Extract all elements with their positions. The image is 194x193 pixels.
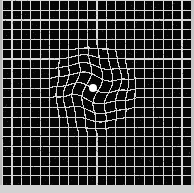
noise-speckle	[121, 11, 122, 12]
noise-speckle	[8, 64, 9, 65]
noise-speckle	[92, 180, 93, 181]
noise-speckle	[54, 83, 55, 84]
noise-speckle	[161, 25, 162, 26]
noise-speckle	[28, 102, 29, 103]
noise-speckle	[95, 157, 96, 158]
noise-speckle	[103, 179, 104, 180]
noise-speckle	[98, 100, 99, 101]
noise-speckle	[74, 2, 75, 3]
noise-speckle	[160, 133, 161, 134]
noise-speckle	[160, 31, 161, 32]
noise-speckle	[12, 132, 13, 133]
noise-speckle	[50, 161, 51, 162]
noise-speckle	[102, 63, 103, 64]
noise-speckle	[41, 177, 42, 178]
noise-speckle	[72, 122, 73, 123]
noise-speckle	[136, 22, 137, 23]
noise-speckle	[124, 24, 125, 25]
noise-speckle	[99, 123, 100, 124]
noise-speckle	[144, 133, 145, 134]
noise-speckle	[33, 166, 34, 167]
noise-speckle	[186, 9, 187, 10]
noise-speckle	[18, 134, 19, 135]
noise-speckle	[42, 68, 43, 69]
noise-speckle	[3, 143, 4, 144]
noise-speckle	[97, 118, 98, 119]
noise-speckle	[188, 62, 189, 63]
noise-speckle	[158, 121, 159, 122]
noise-speckle	[41, 54, 42, 55]
noise-speckle	[21, 20, 22, 21]
noise-speckle	[5, 118, 6, 119]
noise-speckle	[169, 7, 170, 8]
noise-speckle	[76, 11, 77, 12]
noise-speckle	[6, 167, 7, 168]
noise-speckle	[139, 157, 140, 158]
noise-speckle	[58, 151, 59, 152]
noise-speckle	[159, 116, 160, 117]
noise-speckle	[167, 29, 168, 30]
noise-speckle	[18, 1, 19, 2]
noise-speckle	[176, 64, 177, 65]
noise-speckle	[136, 128, 137, 129]
noise-speckle	[171, 143, 172, 144]
noise-speckle	[75, 147, 76, 148]
noise-speckle	[105, 161, 106, 162]
noise-speckle	[10, 180, 11, 181]
noise-speckle	[68, 44, 69, 45]
noise-speckle	[47, 154, 48, 155]
noise-speckle	[41, 83, 42, 84]
noise-speckle	[107, 173, 108, 174]
noise-speckle	[51, 129, 52, 130]
noise-speckle	[96, 137, 97, 138]
noise-speckle	[66, 58, 67, 59]
noise-speckle	[116, 146, 117, 147]
noise-speckle	[14, 100, 15, 101]
noise-speckle	[177, 169, 178, 170]
noise-speckle	[157, 65, 158, 66]
noise-speckle	[131, 37, 132, 38]
noise-speckle	[34, 38, 35, 39]
noise-speckle	[113, 159, 114, 160]
noise-speckle	[184, 149, 185, 150]
noise-speckle	[98, 3, 99, 4]
noise-speckle	[53, 17, 54, 18]
noise-speckle	[56, 64, 57, 65]
noise-speckle	[4, 8, 5, 9]
noise-speckle	[7, 121, 8, 122]
noise-speckle	[79, 125, 80, 126]
noise-speckle	[148, 60, 149, 61]
noise-speckle	[34, 73, 35, 74]
noise-speckle	[50, 99, 51, 100]
noise-speckle	[173, 12, 174, 13]
noise-speckle	[49, 33, 50, 34]
noise-speckle	[46, 3, 47, 4]
noise-speckle	[24, 17, 25, 18]
noise-speckle	[86, 158, 87, 159]
noise-speckle	[27, 143, 28, 144]
noise-speckle	[86, 56, 87, 57]
noise-speckle	[90, 121, 91, 122]
noise-speckle	[64, 16, 65, 17]
noise-speckle	[29, 61, 30, 62]
noise-speckle	[3, 111, 4, 112]
noise-speckle	[184, 69, 185, 70]
noise-speckle	[5, 106, 6, 107]
noise-speckle	[48, 73, 49, 74]
noise-speckle	[13, 180, 14, 181]
noise-speckle	[91, 29, 92, 30]
noise-speckle	[92, 177, 93, 178]
noise-speckle	[132, 104, 133, 105]
noise-speckle	[82, 6, 83, 7]
noise-speckle	[115, 145, 116, 146]
noise-speckle	[76, 83, 77, 84]
noise-speckle	[22, 42, 23, 43]
noise-speckle	[30, 87, 31, 88]
noise-speckle	[90, 44, 91, 45]
noise-speckle	[179, 22, 180, 23]
noise-speckle	[82, 49, 83, 50]
noise-speckle	[109, 169, 110, 170]
noise-speckle	[84, 102, 85, 103]
noise-speckle	[15, 72, 16, 73]
noise-speckle	[141, 108, 142, 109]
